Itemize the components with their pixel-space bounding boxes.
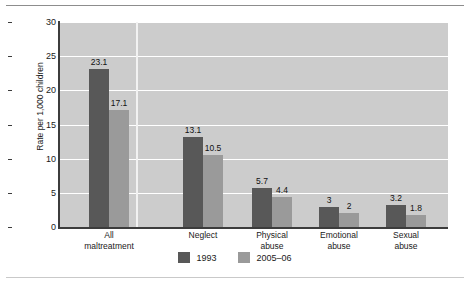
y-axis-tick-30: 30 [16,18,56,27]
y-axis-tick-25: 25 [16,52,56,61]
x-axis-label-0: All maltreatment [69,230,149,252]
y-axis-tickmark [8,193,12,194]
chart-legend: 19932005–06 [0,252,470,263]
gridline-horizontal [60,56,448,57]
bar-value-label: 4.4 [266,186,298,195]
gridline-horizontal [60,22,448,23]
x-axis-label-4: Sexual abuse [366,230,446,252]
y-axis-line [58,21,60,228]
bar-value-label: 10.5 [197,144,229,153]
bar-value-label: 5.7 [246,177,278,186]
y-axis-tickmark [8,159,12,160]
bar-chart-figure: Rate per 1,000 children 051015202530 23.… [0,0,470,286]
y-axis-tickmark [8,90,12,91]
y-axis-tickmark [8,227,12,228]
legend-swatch-2005-06 [238,252,250,263]
y-axis-tickmark [8,22,12,23]
bar-1-3 [339,213,359,227]
gridline-vertical [136,22,138,227]
gridline-horizontal [60,90,448,91]
bar-value-label: 13.1 [177,126,209,135]
bottom-divider-rule [6,277,464,278]
y-axis-tick-15: 15 [16,121,56,130]
y-axis-tickmark [8,125,12,126]
bar-1-1 [203,155,223,227]
bar-value-label: 1.8 [400,204,432,213]
bar-1-0 [109,110,129,227]
y-axis-tick-5: 5 [16,189,56,198]
legend-item-0[interactable]: 1993 [178,252,216,263]
x-axis-label-1: Neglect [163,230,243,241]
y-axis-tick-10: 10 [16,155,56,164]
legend-label: 2005–06 [256,253,291,263]
y-axis-tick-0: 0 [16,223,56,232]
bar-value-label: 23.1 [83,58,115,67]
top-divider-rule [6,5,464,6]
plot-area: 23.117.113.110.55.74.4323.21.8 [60,22,448,227]
legend-label: 1993 [196,253,216,263]
bar-value-label: 3.2 [380,194,412,203]
bar-value-label: 17.1 [103,99,135,108]
y-axis-tick-labels: 051015202530 [12,22,56,227]
bar-1-4 [406,215,426,227]
bar-1-2 [272,197,292,227]
bar-value-label: 2 [333,202,365,211]
legend-swatch-1993 [178,252,190,263]
y-axis-tick-20: 20 [16,86,56,95]
y-axis-tickmark [8,56,12,57]
legend-item-1[interactable]: 2005–06 [238,252,291,263]
bar-0-0 [89,69,109,227]
x-axis-line [58,227,448,229]
